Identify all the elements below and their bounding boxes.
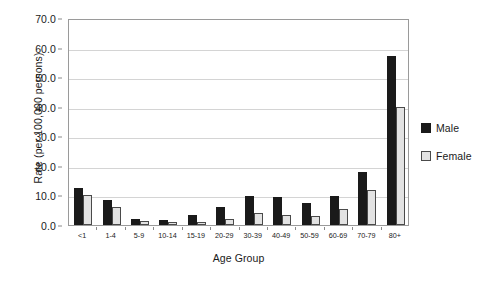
y-axis-tick-mark: [58, 137, 62, 138]
legend-label: Female: [436, 150, 472, 162]
y-axis-tick-labels: 0.010.020.030.040.050.060.070.0: [8, 19, 62, 226]
bar-group: [245, 20, 263, 225]
y-axis-tick-mark: [58, 19, 62, 20]
x-axis-tick-mark: [96, 227, 97, 230]
x-axis-tick-label: 80+: [389, 231, 401, 240]
x-axis-tick-label: 50-59: [300, 231, 318, 240]
bar-group: [387, 20, 405, 225]
bar-male: [273, 197, 282, 225]
y-axis-tick-label: 70.0: [35, 13, 56, 25]
bar-male: [358, 172, 367, 225]
x-axis-tick-label: 5-9: [134, 231, 144, 240]
bars-layer: [69, 20, 408, 225]
bar-group: [74, 20, 92, 225]
bar-group: [273, 20, 291, 225]
bar-male: [245, 196, 254, 225]
legend-swatch-icon: [421, 123, 431, 133]
x-axis-tick-mark: [182, 227, 183, 230]
y-axis-tick-label: 0.0: [41, 220, 56, 232]
y-axis-tick-label: 30.0: [35, 131, 56, 143]
x-axis-tick-mark: [239, 227, 240, 230]
y-axis-tick-mark: [58, 226, 62, 227]
bar-group: [103, 20, 121, 225]
bar-female: [83, 195, 92, 225]
bar-female: [225, 219, 234, 226]
y-axis-tick-label: 60.0: [35, 43, 56, 55]
bar-female: [282, 215, 291, 225]
bar-male: [387, 56, 396, 225]
bar-female: [168, 222, 177, 225]
bar-female: [311, 216, 320, 225]
bar-male: [330, 196, 339, 225]
legend-label: Male: [436, 122, 459, 134]
x-axis-tick-mark: [267, 227, 268, 230]
x-axis-tick-label: 40-49: [272, 231, 290, 240]
y-axis-tick-mark: [58, 107, 62, 108]
y-axis-tick-mark: [58, 48, 62, 49]
bar-group: [131, 20, 149, 225]
x-axis-tick-mark: [324, 227, 325, 230]
bar-group: [188, 20, 206, 225]
x-axis-tick-mark: [125, 227, 126, 230]
x-axis-tick-mark: [210, 227, 211, 230]
bar-female: [140, 221, 149, 225]
y-axis-tick-label: 40.0: [35, 102, 56, 114]
bar-group: [216, 20, 234, 225]
bar-chart: Rate (per 100,000 persons) 0.010.020.030…: [0, 0, 488, 286]
x-axis-tick-labels: <11-45-910-1415-1920-2930-3940-4950-5960…: [68, 227, 409, 243]
x-axis-tick-label: 15-19: [187, 231, 205, 240]
bar-female: [367, 190, 376, 225]
x-axis-tick-mark: [381, 227, 382, 230]
x-axis-tick-label: 60-69: [329, 231, 347, 240]
plot-area: [68, 19, 409, 226]
y-axis-tick-label: 10.0: [35, 190, 56, 202]
legend-swatch-icon: [421, 151, 431, 161]
x-axis-tick-label: 70-79: [357, 231, 375, 240]
bar-female: [112, 207, 121, 225]
x-axis-tick-label: 10-14: [158, 231, 176, 240]
x-axis-tick-label: 20-29: [215, 231, 233, 240]
legend-item-female[interactable]: Female: [421, 146, 472, 166]
bar-male: [103, 200, 112, 225]
bar-female: [339, 209, 348, 225]
bar-female: [197, 222, 206, 225]
x-axis-tick-mark: [153, 227, 154, 230]
x-axis-tick-mark: [352, 227, 353, 230]
bar-male: [159, 220, 168, 225]
bar-female: [396, 107, 405, 225]
bar-group: [159, 20, 177, 225]
x-axis-tick-label: <1: [78, 231, 86, 240]
chart-legend: MaleFemale: [421, 118, 472, 174]
x-axis-tick-label: 30-39: [244, 231, 262, 240]
x-axis-title: Age Group: [68, 252, 409, 264]
y-axis-tick-mark: [58, 78, 62, 79]
bar-male: [302, 203, 311, 225]
x-axis-tick-mark: [295, 227, 296, 230]
y-axis-tick-label: 20.0: [35, 161, 56, 173]
bar-male: [216, 207, 225, 225]
bar-group: [330, 20, 348, 225]
y-axis-tick-label: 50.0: [35, 72, 56, 84]
y-axis-tick-mark: [58, 196, 62, 197]
x-axis-tick-label: 1-4: [105, 231, 115, 240]
y-axis-tick-mark: [58, 166, 62, 167]
legend-item-male[interactable]: Male: [421, 118, 472, 138]
bar-male: [188, 215, 197, 225]
bar-male: [74, 188, 83, 225]
bar-male: [131, 219, 140, 225]
bar-group: [358, 20, 376, 225]
bar-female: [254, 213, 263, 225]
bar-group: [302, 20, 320, 225]
